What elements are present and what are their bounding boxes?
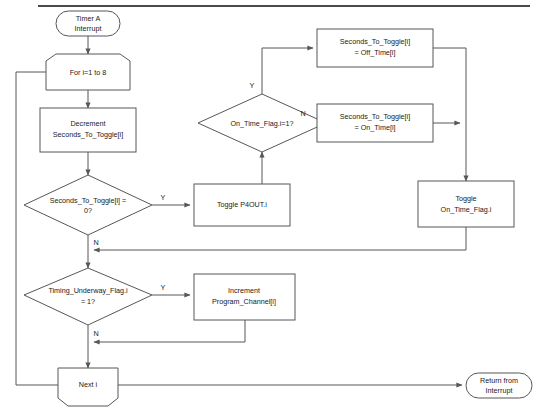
conn-off-time-to-merge (433, 48, 466, 116)
timing-underway-label-line1: Timing_Underway_Flag.i (48, 286, 128, 295)
node-seconds-zero-decision: Seconds_To_Toggle[i] = 0? (24, 175, 152, 235)
conn-increment-to-trunk (94, 320, 245, 342)
toggle-on-time-flag-label-line2: On_Time_Flag.i (441, 205, 492, 214)
branch-label-on-time-yes: Y (250, 81, 255, 90)
on-time-flag-label: On_Time_Flag.i=1? (230, 119, 293, 128)
seconds-zero-label-line1: Seconds_To_Toggle[i] = (50, 196, 127, 205)
for-loop-label: For i=1 to 8 (70, 68, 107, 77)
branch-label-seconds-no: N (93, 238, 98, 247)
node-toggle-on-time-flag: Toggle On_Time_Flag.i (418, 181, 514, 227)
start-label-line1: Timer A (76, 14, 101, 23)
toggle-on-time-flag-label-line1: Toggle (455, 194, 476, 203)
node-toggle-p4out: Toggle P4OUT.i (194, 184, 290, 226)
node-start: Timer A Interrupt (56, 11, 120, 36)
increment-channel-label-line2: Program_Channel[i] (212, 297, 276, 306)
node-for-loop: For i=1 to 8 (46, 54, 130, 90)
conn-toggle-flag-to-trunk (94, 227, 466, 250)
conn-on-time-yes-to-off-time (262, 48, 313, 94)
node-increment-channel: Increment Program_Channel[i] (194, 274, 295, 320)
set-on-time-label-line2: = On_Time[i] (354, 123, 395, 132)
node-return: Return from Interrupt (466, 373, 532, 398)
decrement-label-line2: Seconds_To_Toggle[i] (53, 130, 123, 139)
flowchart-page: Timer A Interrupt For i=1 to 8 Decrement… (0, 0, 535, 420)
set-off-time-label-line1: Seconds_To_Toggle[i] (340, 37, 410, 46)
seconds-zero-label-line2: 0? (84, 206, 92, 215)
node-set-on-time: Seconds_To_Toggle[i] = On_Time[i] (317, 104, 433, 142)
start-label-line2: Interrupt (75, 24, 102, 33)
flowchart-canvas: Timer A Interrupt For i=1 to 8 Decrement… (0, 0, 535, 420)
node-next-i: Next i (58, 368, 118, 406)
node-timing-underway-decision: Timing_Underway_Flag.i = 1? (24, 268, 152, 325)
branch-label-timing-no: N (93, 329, 98, 338)
decrement-label-line1: Decrement (70, 119, 105, 128)
node-on-time-flag-decision: On_Time_Flag.i=1? (198, 94, 326, 152)
branch-label-seconds-yes: Y (161, 193, 166, 202)
node-set-off-time: Seconds_To_Toggle[i] = Off_Time[i] (317, 29, 433, 67)
next-i-label: Next i (79, 380, 98, 389)
branch-label-timing-yes: Y (161, 283, 166, 292)
set-off-time-label-line2: = Off_Time[i] (355, 48, 396, 57)
node-decrement: Decrement Seconds_To_Toggle[i] (40, 108, 136, 152)
branch-label-on-time-no: N (300, 109, 305, 118)
return-label-line1: Return from (480, 376, 518, 385)
toggle-p4out-label: Toggle P4OUT.i (217, 200, 267, 209)
set-on-time-label-line1: Seconds_To_Toggle[i] (340, 112, 410, 121)
increment-channel-label-line1: Increment (228, 286, 260, 295)
return-label-line2: Interrupt (486, 386, 513, 395)
timing-underway-label-line2: = 1? (81, 297, 95, 306)
